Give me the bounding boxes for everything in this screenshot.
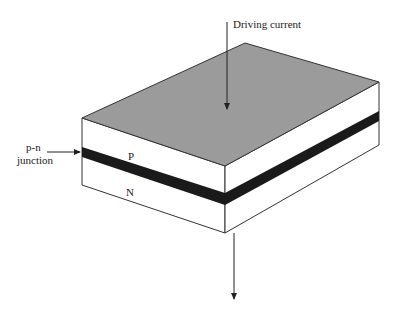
pn-junction-label-line1: p-n [26,141,41,153]
pn-junction-label-line2: junction [17,154,53,166]
p-layer-label: P [128,150,134,162]
n-layer-label: N [126,186,134,198]
driving-current-label: Driving current [233,18,301,30]
led-diagram [0,0,397,312]
